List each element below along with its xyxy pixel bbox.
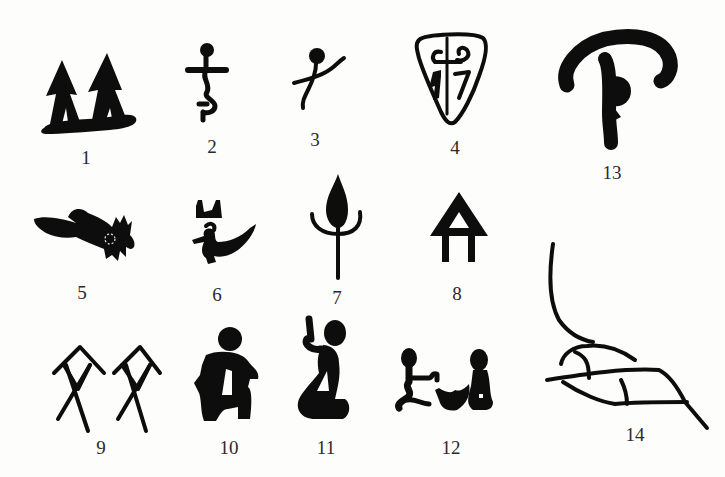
figure-label-4: 4 — [450, 138, 460, 157]
kneeling-figure-icon — [295, 315, 355, 425]
figure-label-14: 14 — [626, 425, 645, 444]
figure-label-9: 9 — [96, 438, 106, 457]
flame-plant-icon — [308, 172, 368, 282]
facing-figures-icon — [395, 348, 500, 420]
figure-label-3: 3 — [310, 130, 320, 149]
squatting-figure-icon — [192, 325, 264, 425]
stick-figure-icon — [185, 42, 230, 124]
figure-label-7: 7 — [332, 288, 342, 307]
paired-figures-icon — [50, 345, 165, 435]
triangle-house-icon — [428, 190, 490, 266]
figure-label-6: 6 — [212, 285, 222, 304]
figure-label-10: 10 — [220, 438, 239, 457]
figure-label-11: 11 — [317, 438, 335, 457]
figure-label-8: 8 — [452, 284, 462, 303]
hooked-symbol-icon — [555, 25, 680, 155]
twin-trees-icon — [40, 50, 140, 140]
dancing-figure-icon — [292, 46, 348, 116]
figure-label-2: 2 — [207, 137, 217, 156]
bird-icon — [190, 198, 260, 270]
leaf-branch-icon — [545, 242, 725, 422]
figure-label-1: 1 — [81, 148, 91, 167]
animal-head-icon — [32, 205, 137, 270]
figure-label-5: 5 — [77, 283, 87, 302]
figure-label-13: 13 — [603, 163, 622, 182]
figure-label-12: 12 — [442, 438, 461, 457]
figure-canvas: 1 2 3 4 — [0, 0, 725, 477]
shield-emblem-icon — [413, 30, 491, 128]
